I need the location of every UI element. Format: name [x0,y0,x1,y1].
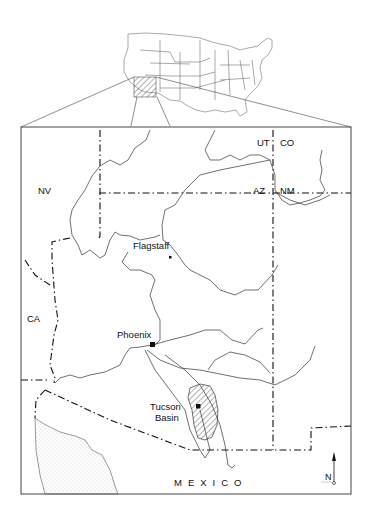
state-label-ut: UT [257,137,270,148]
city-label-phoenix: Phoenix [117,329,152,340]
state-borders [21,130,351,450]
city-labels: Flagstaff Phoenix Tucson Basin [117,240,201,423]
us-inset-map [21,33,351,127]
state-label-nv: NV [38,185,52,196]
tucson-basin-area [188,384,218,440]
region-label-basin: Basin [155,412,179,423]
city-marker-tucson [196,404,201,409]
rivers [55,130,330,468]
coast-stipple [35,418,118,494]
north-arrow-icon: N [321,452,336,485]
north-arrow-label: N [325,472,332,482]
region-label-tucson: Tucson [150,401,181,412]
state-label-az: AZ [253,185,265,196]
city-label-flagstaff: Flagstaff [133,240,170,251]
city-marker-flagstaff [169,256,172,259]
state-label-co: CO [280,137,294,148]
city-marker-phoenix [150,342,155,347]
map-figure: UT CO NV AZ NM CA Flagstaff Phoenix Tucs… [0,0,369,513]
country-label-mexico: MEXICO [174,477,247,488]
state-labels: UT CO NV AZ NM CA [27,137,295,324]
state-label-ca: CA [27,313,41,324]
state-label-nm: NM [280,185,295,196]
inset-highlight [134,77,156,97]
